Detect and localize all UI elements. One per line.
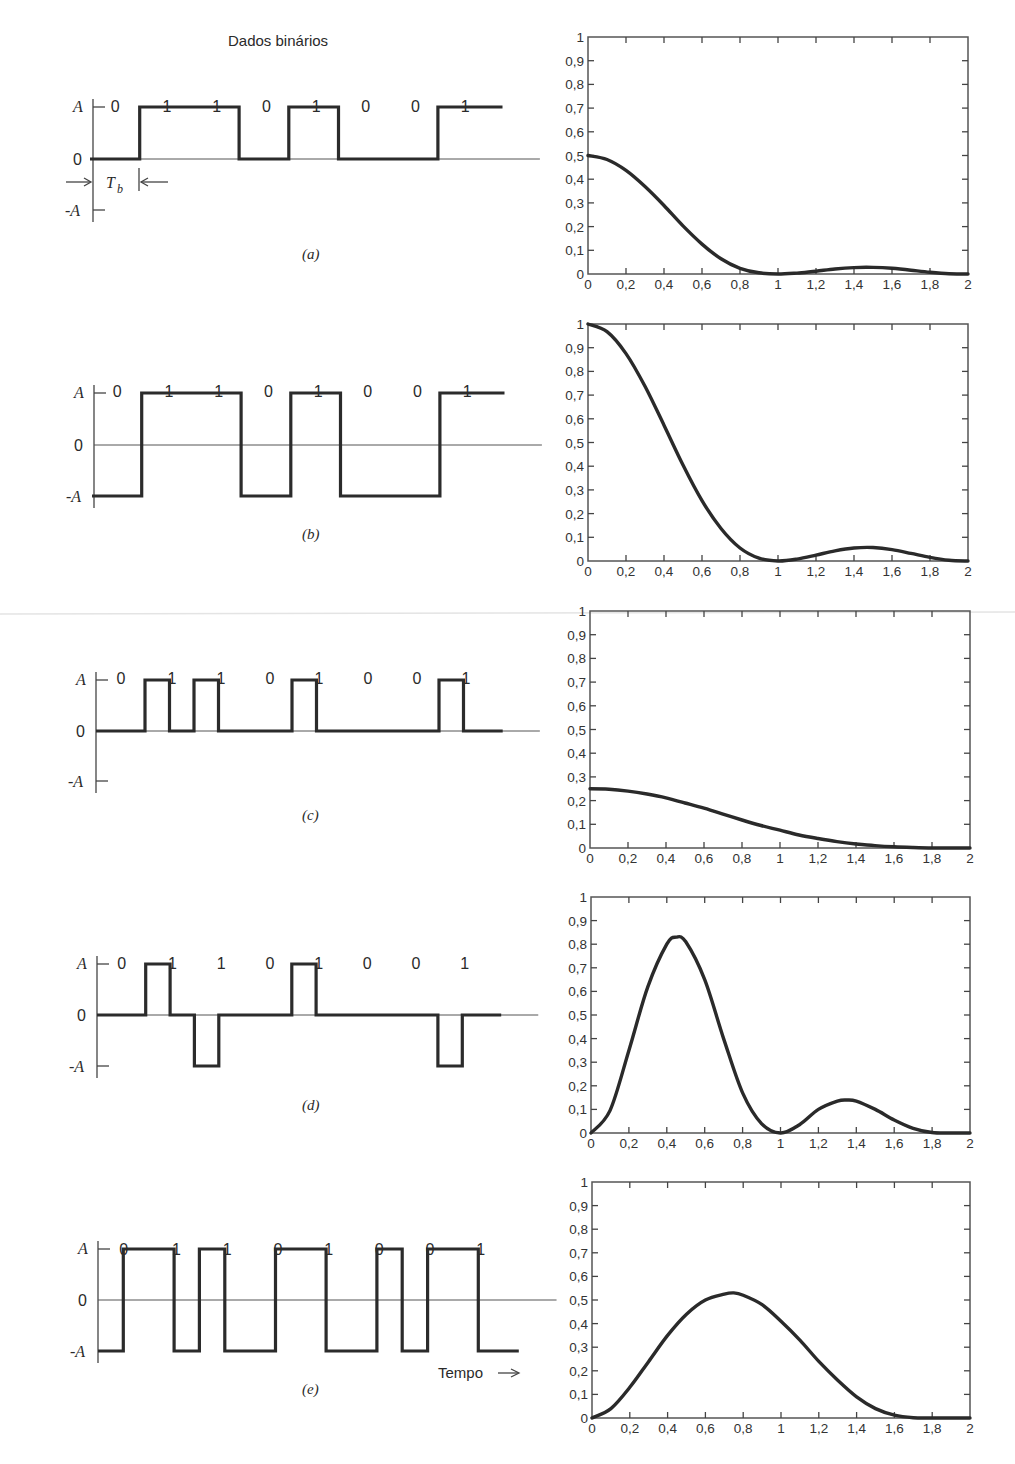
waveform-diagram: 01101001A0-ATempo(e) <box>70 1240 557 1398</box>
x-tick-label: 0,4 <box>655 564 674 579</box>
y-tick-label: 1 <box>576 30 584 45</box>
y-tick-label: 0,1 <box>565 243 584 258</box>
x-tick-label: 2 <box>964 564 972 579</box>
x-tick-label: 1,2 <box>809 851 828 866</box>
y-tick-label: 0,7 <box>569 1246 588 1261</box>
y-tick-label: 0,8 <box>565 77 584 92</box>
bit-label: 0 <box>413 383 422 400</box>
plot-frame <box>590 611 970 848</box>
x-tick-label: 0,4 <box>657 851 676 866</box>
y-tick-label: 0,2 <box>569 1364 588 1379</box>
bit-label: 0 <box>266 670 275 687</box>
x-tick-label: 0,8 <box>733 851 752 866</box>
bit-label: 1 <box>460 955 469 972</box>
y-tick-label: 0,2 <box>565 507 584 522</box>
plot-frame <box>592 1182 970 1418</box>
x-tick-label: 0 <box>584 564 592 579</box>
panel-a: 01101001A0-ATb(a)00,10,20,30,40,50,60,70… <box>65 30 972 292</box>
x-tick-label: 0,4 <box>658 1421 677 1436</box>
y-tick-label: 0,9 <box>567 628 586 643</box>
x-tick-label: 2 <box>966 851 974 866</box>
y-tick-label: 0,7 <box>567 675 586 690</box>
y-tick-label: 0 <box>580 1411 588 1426</box>
x-tick-label: 1 <box>776 851 784 866</box>
x-tick-label: 1,6 <box>883 564 902 579</box>
psd-curve <box>588 324 968 561</box>
y-tick-label: 0,2 <box>567 794 586 809</box>
level-label-high: A <box>73 384 84 401</box>
waveform-diagram: 01101001A0-A(c) <box>68 670 540 824</box>
figure-title: Dados binários <box>228 32 328 49</box>
bit-label: 0 <box>363 383 372 400</box>
x-tick-label: 1,6 <box>885 1421 904 1436</box>
scan-artifact-divider <box>0 612 1015 614</box>
y-tick-label: 0,1 <box>565 530 584 545</box>
x-tick-label: 1 <box>774 564 782 579</box>
bit-label: 0 <box>113 383 122 400</box>
bit-label: 0 <box>264 383 273 400</box>
level-label-low: -A <box>68 773 83 790</box>
signal-waveform <box>96 680 503 731</box>
y-tick-label: 0,4 <box>567 746 586 761</box>
x-tick-label: 0,2 <box>620 1136 639 1151</box>
x-tick-label: 1,2 <box>809 1136 828 1151</box>
x-tick-label: 1,6 <box>883 277 902 292</box>
level-label-zero: 0 <box>73 151 82 168</box>
y-tick-label: 1 <box>579 890 587 905</box>
x-tick-label: 0,2 <box>617 277 636 292</box>
x-tick-label: 0,8 <box>733 1136 752 1151</box>
psd-curve <box>590 789 970 848</box>
x-tick-label: 1,8 <box>921 277 940 292</box>
x-tick-label: 0,6 <box>693 564 712 579</box>
waveform-diagram: 01101001A0-A(b) <box>66 383 542 543</box>
level-label-low: -A <box>65 202 80 219</box>
y-tick-label: 0,6 <box>567 699 586 714</box>
panel-caption: (c) <box>302 807 319 824</box>
x-tick-label: 1,4 <box>845 564 864 579</box>
x-tick-label: 0,2 <box>620 1421 639 1436</box>
y-tick-label: 0,4 <box>565 172 584 187</box>
x-tick-label: 2 <box>966 1136 974 1151</box>
x-tick-label: 0,6 <box>693 277 712 292</box>
psd-curve <box>591 937 970 1133</box>
y-tick-label: 0,3 <box>568 1055 587 1070</box>
y-tick-label: 0,5 <box>567 723 586 738</box>
x-tick-label: 0 <box>586 851 594 866</box>
y-tick-label: 0,6 <box>565 125 584 140</box>
x-tick-label: 0,4 <box>657 1136 676 1151</box>
y-tick-label: 0,8 <box>567 651 586 666</box>
x-tick-label: 1,2 <box>807 564 826 579</box>
y-tick-label: 0 <box>576 554 584 569</box>
y-tick-label: 0,8 <box>569 1222 588 1237</box>
psd-plot: 00,10,20,30,40,50,60,70,80,9100,20,40,60… <box>569 1175 974 1436</box>
panel-caption: (b) <box>302 526 320 543</box>
line-coding-figure: Dados binários 01101001A0-ATb(a)00,10,20… <box>0 0 1015 1464</box>
panel-caption: (d) <box>302 1097 320 1114</box>
y-tick-label: 0 <box>578 841 586 856</box>
bit-label: 0 <box>361 98 370 115</box>
x-tick-label: 1,4 <box>847 1421 866 1436</box>
x-tick-label: 0,6 <box>696 1421 715 1436</box>
x-tick-label: 0 <box>584 277 592 292</box>
level-label-zero: 0 <box>77 1007 86 1024</box>
x-tick-label: 1,2 <box>809 1421 828 1436</box>
bit-label: 0 <box>411 98 420 115</box>
y-tick-label: 0,6 <box>565 412 584 427</box>
x-tick-label: 1,4 <box>847 1136 866 1151</box>
x-tick-label: 0 <box>587 1136 595 1151</box>
y-tick-label: 0,1 <box>569 1387 588 1402</box>
y-tick-label: 0,9 <box>569 1199 588 1214</box>
y-tick-label: 0 <box>576 267 584 282</box>
level-label-zero: 0 <box>74 437 83 454</box>
psd-plot: 00,10,20,30,40,50,60,70,80,9100,20,40,60… <box>565 317 972 579</box>
x-tick-label: 0,6 <box>695 851 714 866</box>
bit-label: 0 <box>412 955 421 972</box>
x-tick-label: 0 <box>588 1421 596 1436</box>
y-tick-label: 1 <box>578 604 586 619</box>
y-tick-label: 0,9 <box>565 54 584 69</box>
x-tick-label: 0,8 <box>731 277 750 292</box>
y-tick-label: 0,7 <box>565 101 584 116</box>
x-tick-label: 0,8 <box>731 564 750 579</box>
bit-label: 0 <box>262 98 271 115</box>
waveform-diagram: 01101001A0-ATb(a) <box>65 98 540 263</box>
